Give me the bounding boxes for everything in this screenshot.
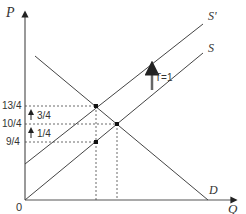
- q-axis-label: Q: [228, 202, 237, 214]
- diff-1-4-label: 1/4: [37, 129, 51, 139]
- supply-curve-s: [25, 53, 203, 200]
- diagram-canvas: [0, 0, 246, 214]
- tick-9-4: 9/4: [6, 137, 20, 147]
- tax-incidence-diagram: P Q 0 S' S D 13/4 10/4 9/4 3/4 1/4 T=1: [0, 0, 246, 214]
- d-label: D: [209, 184, 218, 196]
- tick-13-4: 13/4: [2, 101, 21, 111]
- diff-3-4-label: 3/4: [37, 111, 51, 121]
- s-label: S: [208, 42, 214, 54]
- supply-curve-s-prime: [25, 24, 203, 164]
- point-equilibrium: [115, 122, 119, 126]
- point-seller-price: [94, 140, 98, 144]
- s-prime-label: S': [208, 10, 217, 22]
- point-buyer-price: [94, 104, 98, 108]
- origin-label: 0: [16, 202, 22, 213]
- tick-10-4: 10/4: [2, 119, 21, 129]
- p-axis-label: P: [6, 6, 15, 20]
- demand-curve: [35, 56, 208, 200]
- tax-label: T=1: [155, 73, 173, 83]
